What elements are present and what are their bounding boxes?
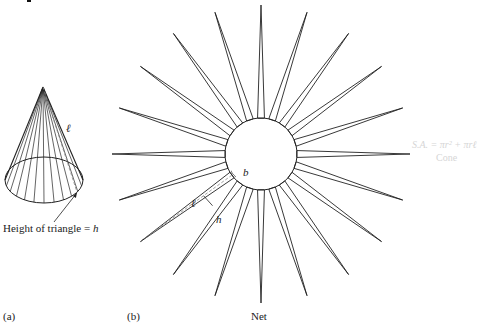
cone-generator-line [10,87,43,192]
figure-canvas [0,0,482,327]
net-spike-triangle [215,12,253,121]
net-slant-label: ℓ [191,197,196,209]
cone-right-edge [43,87,83,180]
net-spike-triangle [258,5,265,118]
net-spike-triangle [297,151,410,158]
cone-generator-line [43,87,64,200]
panel-a-label: (a) [3,310,15,322]
surface-area-formula: S.A. = πr² + πrℓ [412,139,477,150]
cone-generator-line [43,87,72,196]
height-pointer-line [54,193,77,222]
cone-generator-line [43,87,44,203]
net-spike-triangle [294,108,403,146]
height-annotation-var: h [93,222,99,234]
net-spike-triangle [112,151,225,158]
panel-b-label: (b) [127,310,140,322]
net-spike-triangle [215,187,253,296]
net-spike-triangle [119,162,228,200]
formula-caption: Cone [436,152,457,163]
net-base-label: b [243,166,249,178]
cone-generator-line [6,87,43,186]
net-spike-triangle [269,187,307,296]
net-height-pointer [204,196,213,206]
height-annotation-text: Height of triangle = [3,222,93,234]
net-base-polygon [225,118,297,190]
cone-drawing [5,87,83,222]
cone-generator-line [25,87,44,200]
net-spike-triangle [294,162,403,200]
net-spike-triangle [119,108,228,146]
crop-artifact [27,0,31,2]
cone-slant-label: ℓ [66,122,71,134]
net-caption: Net [251,310,267,322]
net-spike-triangle [269,12,307,121]
cone-generator-line [43,87,82,186]
height-annotation: Height of triangle = h [3,222,98,234]
net-spike-triangle [258,190,265,303]
net-height-label: h [216,213,222,225]
cone-net-drawing [112,5,410,303]
